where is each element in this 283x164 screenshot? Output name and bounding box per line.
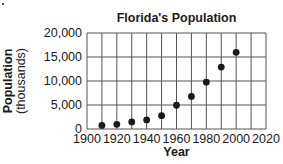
data-point <box>99 122 106 129</box>
x-tick-label: 1940 <box>133 132 161 146</box>
data-point <box>143 116 150 123</box>
data-point <box>128 119 135 126</box>
data-point <box>173 102 180 109</box>
x-tick-label: 2000 <box>222 132 250 146</box>
data-point <box>188 93 195 100</box>
x-tick-label: 1920 <box>103 132 131 146</box>
y-tick-label: 5,000 <box>51 98 82 112</box>
x-tick-label: 1900 <box>73 132 101 146</box>
y-tick-label: 10,000 <box>44 74 82 88</box>
x-axis-label: Year <box>87 145 266 159</box>
y-tick-label: 20,000 <box>44 26 82 40</box>
data-point <box>218 64 225 71</box>
data-point <box>158 112 165 119</box>
data-point <box>203 79 210 86</box>
plot-area: 05,00010,00015,00020,0001900192019401960… <box>0 0 283 164</box>
x-tick-label: 2020 <box>252 132 280 146</box>
x-tick-label: 1980 <box>192 132 220 146</box>
data-point <box>113 121 120 128</box>
data-point <box>233 49 240 56</box>
y-tick-label: 15,000 <box>44 50 82 64</box>
x-tick-label: 1960 <box>163 132 191 146</box>
